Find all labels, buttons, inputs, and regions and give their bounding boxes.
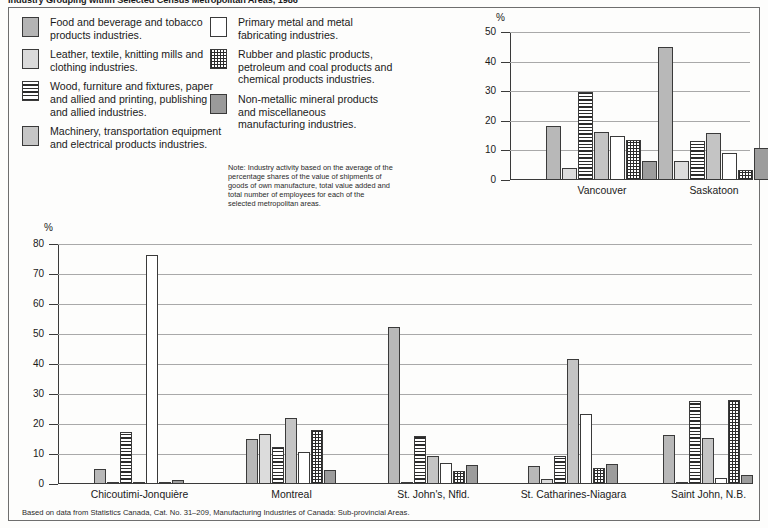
y-axis-tick-label: 0 xyxy=(14,479,44,489)
legend-entry-primary[interactable]: Primary metal and metal fabricating indu… xyxy=(210,16,395,41)
bar-wood[interactable] xyxy=(120,432,132,484)
legend-entry-nonmet[interactable]: Non-metallic mineral products and miscel… xyxy=(210,93,395,131)
bar-food[interactable] xyxy=(663,435,675,485)
bar-machinery[interactable] xyxy=(702,438,714,485)
bar-food[interactable] xyxy=(546,126,561,180)
y-axis-tick xyxy=(49,424,58,425)
bar-primary[interactable] xyxy=(715,478,727,484)
y-axis-tick-label: 60 xyxy=(14,299,44,309)
legend-entry-wood[interactable]: Wood, furniture and fixtures, paper and … xyxy=(22,80,227,118)
bar-machinery[interactable] xyxy=(567,359,579,484)
bar-primary[interactable] xyxy=(146,255,158,484)
legend-swatch-food-icon xyxy=(22,17,39,37)
legend-label-leather: Leather, textile, knitting mills and clo… xyxy=(50,48,227,73)
bar-rubber[interactable] xyxy=(593,468,605,485)
bar-machinery[interactable] xyxy=(594,132,609,180)
legend-label-rubber: Rubber and plastic products, petroleum a… xyxy=(238,48,395,86)
y-axis-tick-label: 30 xyxy=(14,389,44,399)
bar-leather[interactable] xyxy=(107,482,119,484)
chart-bottom-five-cities: %01020304050607080Chicoutimi-JonquièreMo… xyxy=(14,222,760,507)
bar-nonmet[interactable] xyxy=(606,464,618,484)
bar-primary[interactable] xyxy=(298,452,310,484)
legend-swatch-primary-icon xyxy=(210,17,227,37)
bar-nonmet[interactable] xyxy=(172,480,184,485)
bar-nonmet[interactable] xyxy=(324,470,336,484)
bar-primary[interactable] xyxy=(580,414,592,484)
y-axis-unit-label: % xyxy=(496,12,505,23)
legend-swatch-nonmet-icon xyxy=(210,94,227,114)
y-axis-tick xyxy=(501,121,510,122)
chart-top-vancouver-saskatoon: %01020304050VancouverSaskatoon xyxy=(462,12,760,192)
y-axis-tick-label: 30 xyxy=(466,86,496,96)
bar-wood[interactable] xyxy=(272,447,284,484)
legend-entry-rubber[interactable]: Rubber and plastic products, petroleum a… xyxy=(210,48,395,86)
bar-wood[interactable] xyxy=(554,456,566,484)
bar-leather[interactable] xyxy=(674,161,689,180)
bar-food[interactable] xyxy=(388,327,400,484)
x-axis-group-label: Saskatoon xyxy=(634,185,768,196)
y-axis-tick-label: 80 xyxy=(14,239,44,249)
bar-food[interactable] xyxy=(528,466,540,484)
legend-column-right: Primary metal and metal fabricating indu… xyxy=(210,16,395,138)
bar-wood[interactable] xyxy=(578,92,593,181)
bar-nonmet[interactable] xyxy=(741,475,753,484)
bar-machinery[interactable] xyxy=(133,482,145,484)
bar-primary[interactable] xyxy=(722,153,737,180)
bar-rubber[interactable] xyxy=(626,140,641,180)
figure-source: Based on data from Statistics Canada, Ca… xyxy=(22,508,410,517)
y-axis-tick xyxy=(49,304,58,305)
y-axis-tick-label: 20 xyxy=(14,419,44,429)
y-axis-tick-label: 10 xyxy=(466,145,496,155)
bar-primary[interactable] xyxy=(610,136,625,180)
y-axis-tick xyxy=(501,91,510,92)
figure-title: Industry Grouping within Selected Census… xyxy=(0,0,768,5)
bar-leather[interactable] xyxy=(676,482,688,484)
legend-column-left: Food and beverage and tobacco products i… xyxy=(22,16,227,157)
bar-wood[interactable] xyxy=(690,141,705,180)
bar-nonmet[interactable] xyxy=(754,148,768,180)
gridline xyxy=(58,424,752,425)
y-axis-tick xyxy=(49,394,58,395)
bar-rubber[interactable] xyxy=(453,471,465,484)
legend-swatch-rubber-icon xyxy=(210,49,227,69)
x-axis-group-label: Saint John, N.B. xyxy=(629,489,768,500)
bar-food[interactable] xyxy=(246,439,258,484)
bar-machinery[interactable] xyxy=(706,133,721,180)
y-axis-tick-label: 0 xyxy=(466,175,496,185)
bar-nonmet[interactable] xyxy=(642,161,657,180)
x-axis-group-label: Montreal xyxy=(212,489,372,500)
bar-primary[interactable] xyxy=(440,463,452,484)
y-axis-tick xyxy=(49,334,58,335)
y-axis-tick-label: 10 xyxy=(14,449,44,459)
legend-swatch-machinery-icon xyxy=(22,126,39,146)
gridline xyxy=(58,454,752,455)
bar-rubber[interactable] xyxy=(738,170,753,180)
bar-rubber[interactable] xyxy=(159,482,171,484)
bar-rubber[interactable] xyxy=(311,430,323,484)
bar-machinery[interactable] xyxy=(285,418,297,484)
y-axis-tick-label: 50 xyxy=(466,27,496,37)
legend-entry-food[interactable]: Food and beverage and tobacco products i… xyxy=(22,16,227,41)
bar-leather[interactable] xyxy=(401,482,413,484)
bar-leather[interactable] xyxy=(259,434,271,484)
bar-food[interactable] xyxy=(94,469,106,484)
legend-swatch-leather-icon xyxy=(22,49,39,69)
bar-machinery[interactable] xyxy=(427,456,439,485)
gridline xyxy=(58,364,752,365)
bar-wood[interactable] xyxy=(414,436,426,484)
figure-page: Industry Grouping within Selected Census… xyxy=(0,0,768,528)
y-axis-tick-label: 50 xyxy=(14,329,44,339)
gridline xyxy=(58,274,752,275)
bar-rubber[interactable] xyxy=(728,400,740,484)
gridline xyxy=(510,62,750,63)
legend-label-machinery: Machinery, transportation equipment and … xyxy=(50,125,227,150)
legend-entry-leather[interactable]: Leather, textile, knitting mills and clo… xyxy=(22,48,227,73)
y-axis-tick-label: 40 xyxy=(14,359,44,369)
bar-leather[interactable] xyxy=(562,168,577,180)
bar-food[interactable] xyxy=(658,47,673,180)
bar-nonmet[interactable] xyxy=(466,465,478,485)
bar-leather[interactable] xyxy=(541,479,553,484)
y-axis-unit-label: % xyxy=(44,222,53,233)
bar-wood[interactable] xyxy=(689,401,701,484)
legend-entry-machinery[interactable]: Machinery, transportation equipment and … xyxy=(22,125,227,150)
